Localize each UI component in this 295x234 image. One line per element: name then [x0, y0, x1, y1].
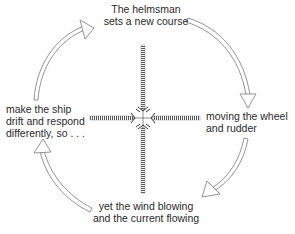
arrow-right-to-bottom — [202, 138, 248, 197]
arrow-left-to-top — [34, 20, 94, 100]
node-right-label: moving the wheel and rudder — [206, 110, 288, 134]
beam-right — [153, 116, 200, 120]
node-bottom-label: yet the wind blowing and the current flo… — [88, 200, 204, 224]
beam-top — [141, 45, 145, 109]
arrow-bottom-to-left — [34, 139, 92, 212]
beam-bottom — [141, 128, 145, 193]
node-left-label: make the ship drift and respond differen… — [6, 103, 85, 139]
arrow-top-to-right — [186, 18, 256, 108]
node-top-label: The helmsman sets a new course — [96, 3, 196, 27]
beam-left — [90, 116, 133, 120]
center-cross-beams — [90, 45, 200, 193]
